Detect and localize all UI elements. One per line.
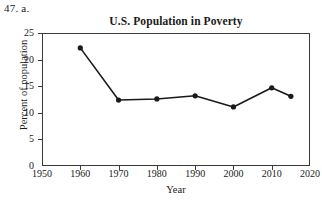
y-tick-mark (38, 113, 42, 114)
y-tick-mark (38, 33, 42, 34)
x-tick-mark (119, 166, 120, 170)
data-point (193, 93, 198, 98)
plot-series-layer (42, 33, 310, 166)
y-tick-mark (38, 86, 42, 87)
x-tick-mark (195, 166, 196, 170)
series-line (80, 48, 291, 107)
x-axis-title: Year (42, 184, 310, 196)
y-tick-label: 5 (8, 134, 34, 144)
data-point (154, 96, 159, 101)
x-tick-mark (272, 166, 273, 170)
y-tick-label: 15 (8, 81, 34, 91)
poverty-line-chart-figure: 47. a. U.S. Population in Poverty Percen… (0, 0, 322, 203)
x-tick-mark (233, 166, 234, 170)
y-tick-label: 20 (8, 55, 34, 65)
data-point (78, 45, 83, 50)
x-tick-label: 1950 (22, 168, 62, 179)
x-tick-mark (157, 166, 158, 170)
x-tick-label: 2020 (290, 168, 322, 179)
data-point (288, 94, 293, 99)
y-tick-mark (38, 139, 42, 140)
data-point (269, 85, 274, 90)
series-markers (78, 45, 294, 109)
problem-number-label: 47. a. (4, 2, 29, 15)
data-point (116, 97, 121, 102)
data-point (231, 104, 236, 109)
y-tick-label: 25 (8, 28, 34, 38)
y-tick-label: 10 (8, 108, 34, 118)
y-tick-mark (38, 60, 42, 61)
chart-title: U.S. Population in Poverty (42, 14, 310, 28)
x-tick-mark (80, 166, 81, 170)
